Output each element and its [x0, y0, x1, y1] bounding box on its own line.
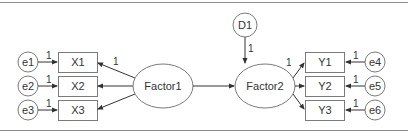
observed-node-x3: X3: [59, 101, 98, 121]
path-label-e2: 1: [46, 74, 52, 85]
path-label-e1: 1: [46, 50, 52, 61]
path-label-e5: 1: [353, 74, 359, 85]
error-label: e3: [22, 104, 34, 116]
latent-label: Factor2: [246, 80, 283, 92]
error-label: e6: [369, 104, 381, 116]
disturbance-node-d1: D1: [233, 13, 257, 37]
observed-node-x1: X1: [59, 53, 98, 73]
error-label: e1: [22, 56, 34, 68]
observed-label: X3: [71, 104, 84, 116]
observed-label: X1: [71, 56, 84, 68]
error-node-e2: e2: [18, 76, 38, 96]
observed-node-y3: Y3: [306, 101, 345, 121]
error-label: e2: [22, 80, 34, 92]
observed-label: Y1: [318, 56, 331, 68]
error-node-e5: e5: [365, 76, 385, 96]
path-factor1-x3: [98, 94, 135, 109]
observed-label: X2: [71, 80, 84, 92]
observed-label: Y3: [318, 104, 331, 116]
path-factor2-y1: [293, 63, 304, 78]
observed-node-y1: Y1: [306, 53, 345, 73]
observed-node-y2: Y2: [306, 77, 345, 97]
path-label-e3: 1: [46, 98, 52, 109]
disturbance-label: D1: [238, 19, 252, 31]
error-node-e3: e3: [18, 100, 38, 120]
error-node-e6: e6: [365, 100, 385, 120]
latent-label: Factor1: [144, 80, 181, 92]
latent-node-factor2: Factor2: [235, 64, 295, 108]
error-label: e4: [369, 56, 381, 68]
error-label: e5: [369, 80, 381, 92]
path-factor2-y3: [293, 94, 304, 109]
observed-label: Y2: [318, 80, 331, 92]
observed-node-x2: X2: [59, 77, 98, 97]
error-node-e1: e1: [18, 52, 38, 72]
path-label-e6: 1: [353, 98, 359, 109]
path-label-e4: 1: [353, 50, 359, 61]
loading-label-factor1-x1: 1: [113, 56, 119, 67]
error-node-e4: e4: [365, 52, 385, 72]
latent-node-factor1: Factor1: [133, 64, 193, 108]
loading-label-factor2-y1: 1: [286, 57, 292, 68]
sem-diagram: e1 e2 e3 1 1 1 X1 X2 X3 1 Factor1 D1: [0, 0, 408, 133]
path-label-d1: 1: [248, 43, 254, 54]
